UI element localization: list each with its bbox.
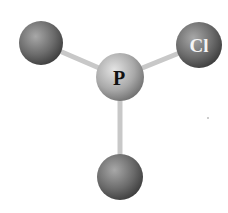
speck: [207, 117, 209, 119]
atom-cl-right: Cl: [176, 22, 222, 68]
atom-label-cl: Cl: [190, 35, 209, 56]
atom-label-p: P: [113, 67, 125, 89]
atom-cl-left: [19, 21, 63, 65]
molecule-diagram: Cl P: [0, 0, 228, 213]
atom-p-central: P: [96, 53, 144, 101]
atom-cl-bottom: [97, 154, 143, 200]
